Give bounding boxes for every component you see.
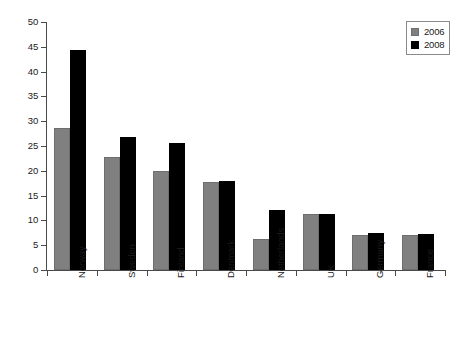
bar bbox=[402, 235, 418, 270]
y-axis-tick bbox=[41, 171, 46, 172]
x-axis-tick bbox=[97, 271, 98, 276]
x-axis-tick bbox=[346, 271, 347, 276]
x-axis-tick bbox=[47, 271, 48, 276]
x-axis-tick bbox=[395, 271, 396, 276]
y-axis-tick bbox=[41, 245, 46, 246]
y-axis-tick-label: 35 bbox=[4, 91, 38, 101]
x-axis-category-label: Finland bbox=[175, 248, 186, 278]
chart-legend: 2006 2008 bbox=[406, 21, 450, 55]
x-axis-category-label: Denmark bbox=[225, 240, 236, 278]
bar bbox=[153, 171, 169, 270]
x-axis-tick bbox=[445, 271, 446, 276]
y-axis-tick-label: 0 bbox=[4, 265, 38, 275]
legend-swatch-2006-icon bbox=[411, 28, 419, 36]
x-axis-category-label: Netherlands bbox=[275, 228, 286, 278]
x-axis-tick bbox=[196, 271, 197, 276]
y-axis-tick bbox=[41, 72, 46, 73]
bar bbox=[203, 182, 219, 270]
y-axis-tick-label: 25 bbox=[4, 141, 38, 151]
y-axis-tick bbox=[41, 146, 46, 147]
x-axis-tick bbox=[246, 271, 247, 276]
x-axis-tick bbox=[296, 271, 297, 276]
legend-swatch-2008-icon bbox=[411, 41, 419, 49]
x-axis-category-label: UK bbox=[325, 265, 336, 278]
bar bbox=[319, 214, 335, 270]
y-axis-tick-label: 20 bbox=[4, 166, 38, 176]
y-axis-tick-label: 40 bbox=[4, 67, 38, 77]
legend-item-2008: 2008 bbox=[411, 38, 444, 51]
x-axis-category-label: France bbox=[424, 249, 435, 278]
y-axis-tick-label: 45 bbox=[4, 42, 38, 52]
x-axis-category-label: Norway bbox=[76, 246, 87, 278]
y-axis-tick-label: 30 bbox=[4, 116, 38, 126]
y-axis-tick-label: 50 bbox=[4, 17, 38, 27]
y-axis-tick bbox=[41, 96, 46, 97]
legend-item-2006: 2006 bbox=[411, 25, 444, 38]
x-axis-tick bbox=[147, 271, 148, 276]
bar bbox=[253, 239, 269, 270]
plot-area bbox=[47, 22, 445, 270]
x-axis-category-label: Sweden bbox=[126, 244, 137, 278]
legend-label-2008: 2008 bbox=[424, 40, 444, 50]
y-axis-tick bbox=[41, 196, 46, 197]
bar bbox=[104, 157, 120, 270]
bar bbox=[54, 128, 70, 270]
x-axis-category-label: Germany bbox=[374, 240, 385, 278]
bar bbox=[352, 235, 368, 270]
y-axis-tick bbox=[41, 47, 46, 48]
y-axis-line bbox=[46, 22, 47, 271]
y-axis-tick bbox=[41, 220, 46, 221]
legend-label-2006: 2006 bbox=[424, 27, 444, 37]
bar-chart: 05101520253035404550 NorwaySwedenFinland… bbox=[0, 0, 471, 347]
bar bbox=[303, 214, 319, 270]
y-axis-tick bbox=[41, 22, 46, 23]
bar bbox=[70, 50, 86, 270]
y-axis-tick bbox=[41, 270, 46, 271]
y-axis-tick-label: 5 bbox=[4, 240, 38, 250]
y-axis-tick-label: 10 bbox=[4, 215, 38, 225]
y-axis-tick bbox=[41, 121, 46, 122]
y-axis-tick-label: 15 bbox=[4, 191, 38, 201]
